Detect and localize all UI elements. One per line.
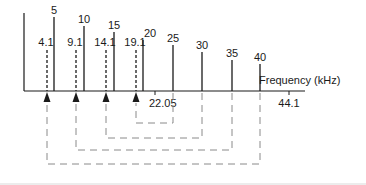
input-label: 10: [78, 13, 90, 25]
alias-label: 9.1: [67, 36, 82, 48]
alias-label: 4.1: [38, 36, 53, 48]
arrow-up-icon: [103, 92, 110, 102]
alias-label: 14.1: [94, 36, 115, 48]
tick-label: 44.1: [278, 97, 299, 109]
aliasing-diagram: Frequency (kHz) 22.0544.1 51015202530354…: [0, 0, 366, 185]
axis-label: Frequency (kHz): [259, 74, 340, 86]
tick-label: 22.05: [149, 97, 177, 109]
input-label: 25: [167, 32, 179, 44]
input-label: 40: [254, 51, 266, 63]
axis-ticks: 22.0544.1: [149, 91, 300, 109]
alias-label: 19.1: [124, 36, 145, 48]
input-label: 5: [51, 4, 57, 16]
arrow-up-icon: [133, 92, 140, 102]
input-label: 35: [226, 47, 238, 59]
input-frequency-lines: 510152025303540: [51, 4, 266, 91]
input-label: 15: [108, 19, 120, 31]
bottom-divider: [0, 183, 366, 185]
arrow-up-icon: [73, 92, 80, 102]
arrow-up-icon: [44, 92, 51, 102]
input-label: 30: [196, 39, 208, 51]
